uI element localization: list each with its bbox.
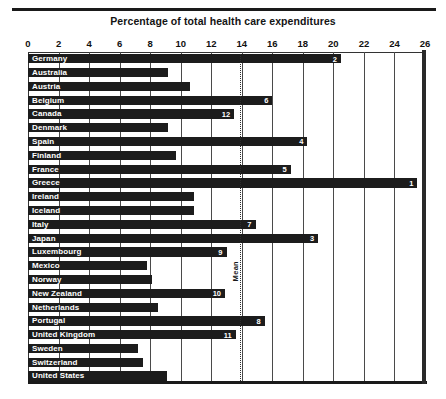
bar-row: Japan3 <box>28 231 425 245</box>
bar-category-label: Italy <box>32 221 49 229</box>
bar-row: Luxembourg9 <box>28 245 425 259</box>
x-tick-label-6: 6 <box>117 38 122 49</box>
x-tick-label-14: 14 <box>236 38 247 49</box>
bar-row: Austria <box>28 80 425 94</box>
bar <box>28 165 291 174</box>
bar-value-label: 2 <box>327 56 337 64</box>
bar <box>28 54 341 63</box>
bar-category-label: Portugal <box>32 317 65 325</box>
bar-category-label: France <box>32 166 59 174</box>
bar-category-label: Norway <box>32 276 62 284</box>
x-axis-line <box>28 381 427 384</box>
bar-row: Spain4 <box>28 135 425 149</box>
bar-row: Greece1 <box>28 176 425 190</box>
bar <box>28 137 307 146</box>
bar-value-label: 5 <box>277 166 287 174</box>
bar-category-label: Finland <box>32 152 61 160</box>
x-tick-label-10: 10 <box>175 38 186 49</box>
bar <box>28 96 272 105</box>
plot-area: Germany2AustraliaAustriaBelgium6Canada12… <box>28 52 425 383</box>
bar-category-label: Belgium <box>32 97 64 105</box>
bar-category-label: New Zealand <box>32 290 82 298</box>
chart-figure: Percentage of total health care expendit… <box>0 0 446 399</box>
bar-value-label: 3 <box>304 235 314 243</box>
bar-category-label: Germany <box>32 55 67 63</box>
bar-value-label: 6 <box>258 97 268 105</box>
bar-category-label: Greece <box>32 179 60 187</box>
bar-category-label: Denmark <box>32 124 67 132</box>
bar-row: Norway <box>28 273 425 287</box>
bar-category-label: Spain <box>32 138 54 146</box>
bar-category-label: United States <box>32 372 84 380</box>
bar-category-label: Mexico <box>32 262 60 270</box>
mean-line-label: Mean <box>232 260 240 282</box>
x-tick-label-20: 20 <box>328 38 339 49</box>
x-tick-label-24: 24 <box>389 38 400 49</box>
bar <box>28 220 256 229</box>
bar-value-label: 4 <box>293 138 303 146</box>
bar <box>28 234 318 243</box>
bar-category-label: Iceland <box>32 207 60 215</box>
x-tick-label-22: 22 <box>359 38 370 49</box>
bar-row: Portugal8 <box>28 314 425 328</box>
bar-category-label: Austria <box>32 83 60 91</box>
bar-value-label: 8 <box>251 318 261 326</box>
x-tick-label-4: 4 <box>86 38 91 49</box>
bar-row: Ireland <box>28 190 425 204</box>
bar-category-label: Switzerland <box>32 359 78 367</box>
bar-value-label: 7 <box>242 221 252 229</box>
bar-row: Belgium6 <box>28 93 425 107</box>
x-tick-label-12: 12 <box>206 38 217 49</box>
bar-row: Canada12 <box>28 107 425 121</box>
bar-category-label: Australia <box>32 69 67 77</box>
mean-line <box>240 52 241 383</box>
bar-row: Switzerland <box>28 355 425 369</box>
bar-row: New Zealand10 <box>28 286 425 300</box>
bar-row: Finland <box>28 149 425 163</box>
bar-row: Mexico <box>28 259 425 273</box>
bar-value-label: 9 <box>213 249 223 257</box>
bar-value-label: 12 <box>220 111 230 119</box>
bar-row: Germany2 <box>28 52 425 66</box>
bar-row: Netherlands <box>28 300 425 314</box>
x-tick-label-26: 26 <box>420 38 431 49</box>
bar-value-label: 1 <box>403 180 413 188</box>
bar-category-label: Canada <box>32 110 62 118</box>
x-tick-label-2: 2 <box>56 38 61 49</box>
x-axis-tick-labels: 02468101214161820222426 <box>0 38 446 51</box>
chart-title: Percentage of total health care expendit… <box>0 15 446 27</box>
bar-value-label: 11 <box>222 332 232 340</box>
bar-category-label: Luxembourg <box>32 248 81 256</box>
bar-value-label: 10 <box>211 290 221 298</box>
x-tick-label-0: 0 <box>25 38 30 49</box>
plot-right-edge <box>422 50 426 384</box>
bar-row: Sweden <box>28 342 425 356</box>
bar-row: Denmark <box>28 121 425 135</box>
bar-row: France5 <box>28 162 425 176</box>
bar-row: Italy7 <box>28 218 425 232</box>
x-tick-label-18: 18 <box>298 38 309 49</box>
bar-category-label: Japan <box>32 235 56 243</box>
top-divider-rule <box>12 8 436 11</box>
bar-category-label: Sweden <box>32 345 63 353</box>
x-tick-label-8: 8 <box>147 38 152 49</box>
bar-category-label: United Kingdom <box>32 331 95 339</box>
x-tick-label-16: 16 <box>267 38 278 49</box>
bar-row: Australia <box>28 66 425 80</box>
bar <box>28 178 417 187</box>
bar-category-label: Ireland <box>32 193 59 201</box>
bar-category-label: Netherlands <box>32 304 79 312</box>
bar-row: Iceland <box>28 204 425 218</box>
bar-row: United Kingdom11 <box>28 328 425 342</box>
